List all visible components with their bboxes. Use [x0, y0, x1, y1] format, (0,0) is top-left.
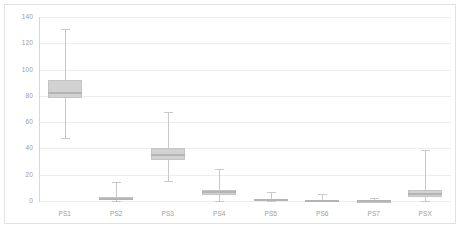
x-tick-ps6: PS6: [297, 211, 349, 218]
box-plot: 020406080100120140 PS1PS2PS3PS4PS5PS6PS7…: [5, 5, 457, 225]
chart-frame: 020406080100120140 PS1PS2PS3PS4PS5PS6PS7…: [4, 4, 456, 224]
x-tick-ps1: PS1: [39, 211, 91, 218]
median-line: [408, 193, 442, 195]
x-tick-psx: PSX: [400, 211, 452, 218]
whisker-cap-upper: [421, 150, 430, 151]
x-tick-ps4: PS4: [194, 211, 246, 218]
x-tick-ps2: PS2: [91, 211, 143, 218]
x-tick-ps3: PS3: [142, 211, 194, 218]
box-psx: [5, 5, 457, 225]
whisker-cap-lower: [421, 201, 430, 202]
x-tick-ps5: PS5: [245, 211, 297, 218]
x-tick-ps7: PS7: [348, 211, 400, 218]
